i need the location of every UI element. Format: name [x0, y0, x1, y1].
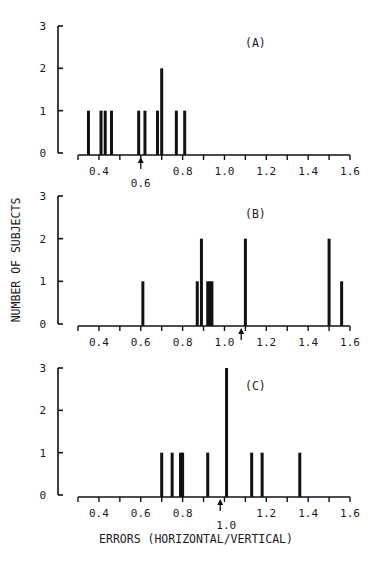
x-tick-label: 0.8	[173, 165, 193, 178]
bar	[206, 453, 209, 497]
x-tick-label: 1.6	[340, 507, 360, 520]
bar	[225, 368, 228, 497]
bar	[181, 453, 184, 497]
bar	[340, 281, 343, 326]
arrow-label: 0.6	[131, 177, 151, 190]
y-tick-label: 1	[39, 105, 46, 118]
y-tick-label: 0	[39, 318, 46, 331]
x-tick-label: 1.4	[298, 165, 318, 178]
x-tick-label: 1.2	[256, 336, 276, 349]
x-tick-label: 1.4	[298, 507, 318, 520]
x-tick-label: 0.6	[131, 336, 151, 349]
x-tick-label: 1.0	[215, 336, 235, 349]
arrow-head-icon	[138, 157, 144, 163]
y-tick-label: 3	[39, 190, 46, 203]
x-tick-label: 1.6	[340, 165, 360, 178]
bar	[171, 453, 174, 497]
x-tick-label: 0.4	[89, 336, 109, 349]
y-tick-label: 3	[39, 20, 46, 33]
x-axis-label: ERRORS (HORIZONTAL/VERTICAL)	[99, 532, 293, 546]
bar	[143, 111, 146, 155]
chart-panel-a: 01230.40.81.01.21.41.60.6(A)	[39, 20, 360, 190]
chart-panel-c: 01230.40.60.81.21.41.61.0(C)	[39, 362, 360, 532]
bar	[137, 111, 140, 155]
x-tick-label: 1.0	[215, 165, 235, 178]
bar	[141, 281, 144, 326]
bar	[261, 453, 264, 497]
y-tick-label: 1	[39, 275, 46, 288]
bar	[250, 453, 253, 497]
x-tick-label: 1.2	[256, 507, 276, 520]
y-tick-label: 0	[39, 147, 46, 160]
arrow-head-icon	[217, 499, 223, 505]
bar	[87, 111, 90, 155]
bar	[183, 111, 186, 155]
bar	[160, 453, 163, 497]
bar	[200, 239, 203, 326]
x-tick-label: 0.4	[89, 507, 109, 520]
y-tick-label: 2	[39, 233, 46, 246]
x-tick-label: 1.4	[298, 336, 318, 349]
arrow-label: 1.0	[216, 519, 236, 532]
y-tick-label: 1	[39, 447, 46, 460]
x-tick-label: 0.8	[173, 507, 193, 520]
y-axis-label: NUMBER OF SUBJECTS	[9, 198, 23, 323]
figure: 01230.40.81.01.21.41.60.6(A)01230.40.60.…	[0, 0, 375, 565]
bar	[244, 239, 247, 326]
bar	[175, 111, 178, 155]
bar	[160, 68, 163, 155]
bar	[196, 281, 199, 326]
y-tick-label: 2	[39, 404, 46, 417]
x-tick-label: 1.6	[340, 336, 360, 349]
bar	[100, 111, 103, 155]
arrow-head-icon	[238, 328, 244, 334]
bar	[328, 239, 331, 326]
chart-panel-b: 01230.40.60.81.01.21.41.6(B)	[39, 190, 360, 349]
bar	[210, 281, 213, 326]
panel-label: (C)	[245, 379, 266, 393]
bar	[110, 111, 113, 155]
x-tick-label: 0.6	[131, 507, 151, 520]
y-tick-label: 3	[39, 362, 46, 375]
y-tick-label: 2	[39, 62, 46, 75]
x-tick-label: 0.4	[89, 165, 109, 178]
bar	[104, 111, 107, 155]
bar	[298, 453, 301, 497]
x-tick-label: 0.8	[173, 336, 193, 349]
panel-label: (A)	[245, 36, 266, 50]
bar	[156, 111, 159, 155]
y-tick-label: 0	[39, 489, 46, 502]
x-tick-label: 1.2	[256, 165, 276, 178]
panels: 01230.40.81.01.21.41.60.6(A)01230.40.60.…	[39, 20, 360, 532]
panel-label: (B)	[245, 207, 266, 221]
